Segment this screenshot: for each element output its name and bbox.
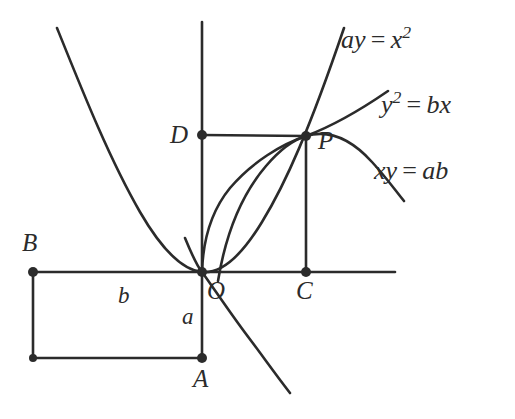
point-P	[301, 131, 311, 141]
point-C	[301, 267, 311, 277]
point-B	[28, 267, 38, 277]
segment-D-to-P	[202, 135, 306, 136]
equation-hyperbola-equals: =	[402, 156, 417, 185]
label-segment-a: a	[182, 305, 194, 328]
label-point-P: P	[318, 128, 333, 153]
geometry-figure: O P C D A B b a ay = x2 y2 = bx xy = ab	[0, 0, 515, 419]
point-bottomleft-corner	[29, 354, 37, 362]
label-segment-b: b	[118, 284, 130, 307]
equation-semicubic-rhs: bx	[427, 90, 452, 119]
curve-parabola-ay-x2	[57, 28, 344, 272]
diagram-canvas	[0, 0, 515, 419]
equation-hyperbola-rhs: ab	[422, 156, 448, 185]
label-equation-parabola: ay = x2	[341, 24, 411, 53]
point-D	[197, 130, 207, 140]
equation-parabola-rhs-base: x	[391, 25, 403, 54]
label-equation-hyperbola: xy = ab	[374, 158, 448, 184]
label-point-O: O	[207, 278, 225, 303]
label-point-C: C	[296, 278, 313, 303]
equation-parabola-rhs-exponent: 2	[402, 22, 411, 42]
curve-semicubic-y2-bx	[202, 91, 388, 272]
equation-semicubic-lhs-base: y	[381, 90, 393, 119]
equation-semicubic-equals: =	[407, 90, 422, 119]
equation-hyperbola-lhs: xy	[374, 156, 397, 185]
label-point-B: B	[22, 230, 37, 255]
label-point-D: D	[170, 122, 188, 147]
equation-parabola-equals: =	[371, 25, 386, 54]
label-point-A: A	[193, 366, 208, 391]
point-A	[197, 353, 207, 363]
point-O	[197, 267, 207, 277]
label-equation-semicubic: y2 = bx	[381, 89, 451, 118]
equation-parabola-lhs: ay	[341, 25, 366, 54]
